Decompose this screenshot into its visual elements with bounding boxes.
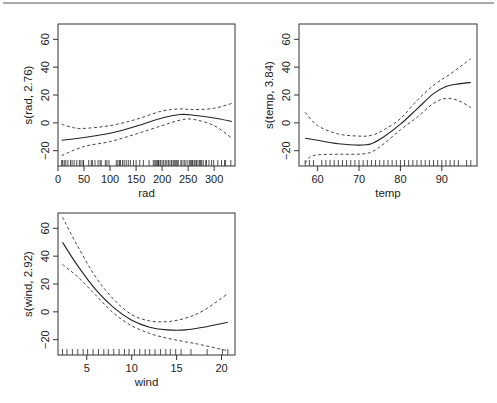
plot-frame [299,24,477,166]
y-tick-label: 40 [39,250,51,262]
y-tick-label: 20 [39,89,51,101]
fit-line [62,114,232,140]
x-axis-label: temp [375,187,401,199]
panel-temp: 60708090 −200204060 temp s(temp, 3.84) [263,24,477,199]
confidence-band-line [63,217,228,322]
y-axis-label: s(temp, 3.84) [263,61,275,129]
panel-rad: 050100150200250300 −200204060 rad s(rad,… [22,24,235,199]
y-axis-label: s(rad, 2.76) [22,65,34,124]
rug-marks [62,349,227,355]
rug-marks [305,160,471,166]
y-tick-label: 60 [39,222,51,234]
smooth-curves [305,59,471,163]
plot-frame [58,24,235,166]
y-axis: −200204060 [39,33,58,160]
y-tick-label: 0 [280,120,292,126]
confidence-band-line [305,98,471,163]
y-tick-label: 0 [39,309,51,315]
x-tick-label: 250 [179,173,197,185]
x-axis: 050100150200250300 [55,166,223,185]
x-tick-label: 100 [101,173,119,185]
x-tick-label: 50 [78,173,90,185]
y-tick-label: 40 [39,61,51,73]
y-tick-label: −20 [280,141,292,160]
confidence-band-line [63,265,228,351]
x-tick-label: 15 [170,362,182,374]
x-tick-label: 300 [205,173,223,185]
y-tick-label: 20 [39,278,51,290]
x-axis: 5101520 [84,355,228,374]
x-tick-label: 90 [436,173,448,185]
y-tick-label: 60 [39,33,51,45]
y-tick-label: −20 [39,141,51,160]
x-axis-label: wind [134,376,159,388]
x-tick-label: 0 [55,173,61,185]
x-axis-label: rad [138,187,155,199]
y-axis: −200204060 [39,222,58,349]
x-tick-label: 60 [312,173,324,185]
x-tick-label: 80 [394,173,406,185]
x-tick-label: 10 [126,362,138,374]
y-tick-label: 20 [280,89,292,101]
y-axis: −200204060 [280,33,299,160]
confidence-band-line [305,59,471,136]
smooth-curves [63,217,228,351]
fit-line [305,83,471,146]
x-tick-label: 5 [84,362,90,374]
y-tick-label: −20 [39,330,51,349]
y-tick-label: 0 [39,120,51,126]
y-tick-label: 40 [280,61,292,73]
x-axis: 60708090 [312,166,448,185]
x-tick-label: 70 [353,173,365,185]
y-axis-label: s(wind, 2.92) [22,251,34,317]
panel-wind: 5101520 −200204060 wind s(wind, 2.92) [22,213,235,388]
x-tick-label: 20 [215,362,227,374]
rug-marks [62,160,231,166]
x-tick-label: 200 [153,173,171,185]
smooth-curves [62,103,232,155]
x-tick-label: 150 [127,173,145,185]
y-tick-label: 60 [280,33,292,45]
confidence-band-line [62,103,232,128]
gam-smooth-figure: 050100150200250300 −200204060 rad s(rad,… [0,0,497,403]
